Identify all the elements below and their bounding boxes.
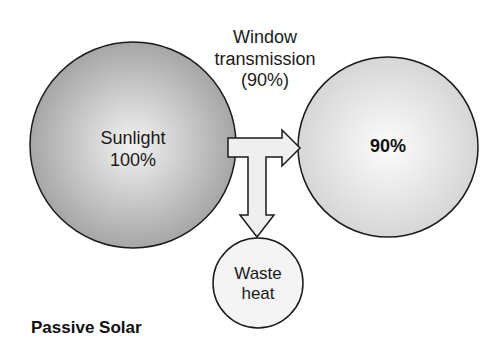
- transmission-line-1: Window: [200, 27, 330, 49]
- waste-heat-label: Waste heat: [218, 264, 298, 305]
- transmission-line-2: transmission: [200, 49, 330, 71]
- source-label: Sunlight 100%: [83, 128, 183, 171]
- output-value: 90%: [343, 136, 433, 158]
- diagram-title: Passive Solar: [31, 318, 142, 338]
- waste-line-1: Waste: [218, 264, 298, 284]
- waste-line-2: heat: [218, 284, 298, 304]
- transmission-line-3: (90%): [200, 70, 330, 92]
- source-name: Sunlight: [83, 128, 183, 150]
- transmission-label: Window transmission (90%): [200, 27, 330, 92]
- flow-arrow-icon: [228, 130, 300, 237]
- source-value: 100%: [83, 150, 183, 172]
